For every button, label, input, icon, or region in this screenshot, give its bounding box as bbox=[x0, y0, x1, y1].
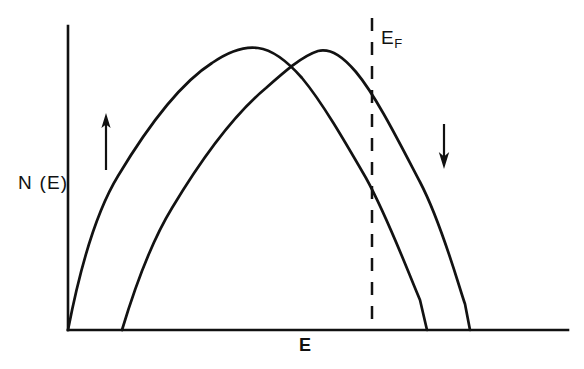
y-axis-label: N (E) bbox=[18, 173, 68, 192]
x-axis-label: E bbox=[299, 336, 312, 354]
fermi-level-subscript: F bbox=[394, 36, 402, 51]
dos-figure: N (E) E EF bbox=[0, 0, 584, 369]
spin-down-arrow bbox=[439, 124, 449, 169]
figure-canvas bbox=[0, 0, 584, 369]
spin-down-dos-curve bbox=[122, 50, 470, 330]
fermi-level-symbol: E bbox=[381, 27, 394, 48]
spin-up-arrow bbox=[101, 113, 110, 170]
fermi-level-label: EF bbox=[381, 28, 402, 50]
